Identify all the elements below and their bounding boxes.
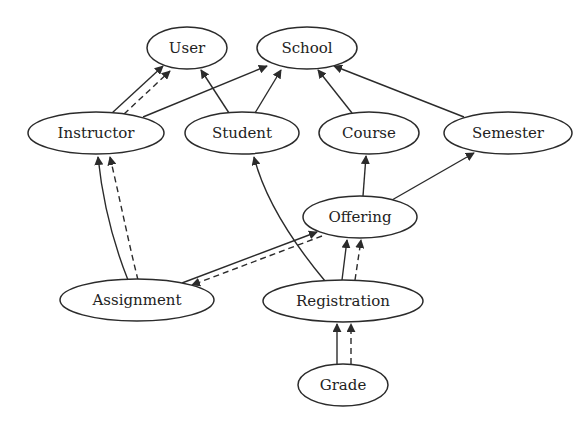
edge-instructor-to-school-solid xyxy=(143,66,267,117)
node-student-label: Student xyxy=(212,124,272,142)
nodes-layer: User School Instructor Student Course Se… xyxy=(28,27,572,406)
edge-instructor-to-user-dashed xyxy=(124,71,170,114)
edge-assignment-to-offering-solid xyxy=(182,232,317,283)
entity-relationship-graph: User School Instructor Student Course Se… xyxy=(0,0,587,435)
node-student: Student xyxy=(185,112,299,154)
node-offering-label: Offering xyxy=(328,208,391,226)
node-course: Course xyxy=(319,112,419,154)
node-user: User xyxy=(147,27,227,69)
node-school: School xyxy=(257,27,357,69)
edge-registration-to-offering-solid xyxy=(342,240,347,280)
edge-offering-to-course xyxy=(363,156,366,196)
edge-semester-to-school xyxy=(334,66,464,117)
node-course-label: Course xyxy=(342,124,396,142)
node-assignment: Assignment xyxy=(60,279,214,321)
edge-instructor-to-user-solid xyxy=(112,66,163,113)
edge-assignment-to-instructor-dashed xyxy=(110,157,138,280)
node-registration: Registration xyxy=(263,280,423,322)
edge-course-to-school xyxy=(318,70,352,113)
node-assignment-label: Assignment xyxy=(91,291,181,309)
edge-offering-to-semester xyxy=(392,153,474,200)
node-grade: Grade xyxy=(298,364,388,406)
node-school-label: School xyxy=(281,39,332,57)
edge-student-to-school xyxy=(255,70,281,113)
node-registration-label: Registration xyxy=(296,292,390,310)
node-offering: Offering xyxy=(303,196,417,238)
node-grade-label: Grade xyxy=(320,376,367,394)
node-instructor-label: Instructor xyxy=(58,124,136,142)
node-semester-label: Semester xyxy=(472,124,545,142)
node-user-label: User xyxy=(169,39,206,57)
edge-registration-to-offering-dashed xyxy=(355,240,361,280)
node-instructor: Instructor xyxy=(28,112,164,154)
edge-offering-to-assignment-dashed xyxy=(192,236,322,285)
node-semester: Semester xyxy=(444,112,572,154)
